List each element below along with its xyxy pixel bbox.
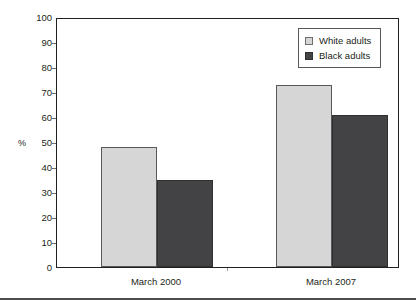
bottom-divider-rule: [0, 298, 416, 300]
white-adults-swatch-icon: [305, 37, 313, 45]
black-adults-swatch-icon: [305, 52, 313, 60]
y-axis-tick-50: 50: [30, 138, 52, 148]
y-axis-tick-0: 0: [30, 263, 52, 273]
bar-march-2007-white-adults: [276, 85, 332, 268]
y-axis-tick-40: 40: [30, 163, 52, 173]
x-axis-mid-tick: [227, 268, 228, 271]
y-axis-tick-20: 20: [30, 213, 52, 223]
x-axis-label-march-2000: March 2000: [96, 276, 216, 287]
y-axis-tick-90: 90: [30, 38, 52, 48]
x-axis-label-march-2007: March 2007: [271, 276, 391, 287]
legend-label-black-adults: Black adults: [319, 51, 370, 61]
legend-item-black-adults: Black adults: [305, 48, 371, 63]
y-axis-tick-70: 70: [30, 88, 52, 98]
bar-march-2000-white-adults: [101, 147, 157, 267]
bar-march-2000-black-adults: [157, 180, 213, 268]
y-axis-tick-60: 60: [30, 113, 52, 123]
y-axis-tick-100: 100: [30, 13, 52, 23]
legend-item-white-adults: White adults: [305, 33, 371, 48]
legend-label-white-adults: White adults: [319, 36, 371, 46]
chart-legend: White adults Black adults: [298, 28, 381, 68]
y-axis-tick-30: 30: [30, 188, 52, 198]
y-axis-tick-80: 80: [30, 63, 52, 73]
bar-chart-figure: % 1009080706050403020100 White adults Bl…: [0, 0, 416, 307]
y-axis-tick-labels: 1009080706050403020100: [26, 0, 52, 307]
y-axis-tick-10: 10: [30, 238, 52, 248]
y-axis-title: %: [18, 138, 26, 148]
plot-frame: White adults Black adults: [56, 18, 399, 268]
bar-march-2007-black-adults: [332, 115, 388, 268]
